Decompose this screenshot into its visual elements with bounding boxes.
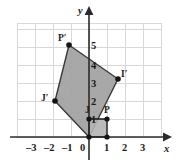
image-quadrilateral [55,45,118,137]
origin-label: 0 [80,143,85,154]
point-j-prime [52,98,58,104]
y-tick-4: 4 [91,61,96,72]
y-tick-2: 2 [91,97,96,108]
x-axis-label: x [164,144,169,155]
point-p-prime [66,42,72,48]
x-tick-neg2: –2 [44,143,55,154]
label-i-prime: I′ [121,70,127,80]
point-i-prime [115,76,121,82]
point-origin [86,134,91,139]
label-p: P [104,106,110,116]
y-axis-arrow [85,6,94,15]
x-tick-pos3: 3 [140,143,145,154]
label-j-prime: J′ [41,94,48,104]
y-tick-5: 5 [91,41,96,52]
coordinate-plane-figure: –3 –2 –1 0 1 2 3 1 2 3 4 5 x y P′ J′ I′ … [0,0,187,166]
label-p-prime: P′ [58,34,66,44]
x-axis-arrow [163,133,172,142]
x-tick-neg1: –1 [62,143,73,154]
y-tick-3: 3 [91,79,96,90]
point-p [104,116,109,121]
label-j: J [85,106,90,116]
x-tick-pos1: 1 [104,143,109,154]
x-tick-pos2: 2 [122,143,127,154]
point-i [104,134,109,139]
x-tick-neg3: –3 [26,143,37,154]
y-tick-1: 1 [91,115,96,126]
y-axis-label: y [78,6,83,17]
